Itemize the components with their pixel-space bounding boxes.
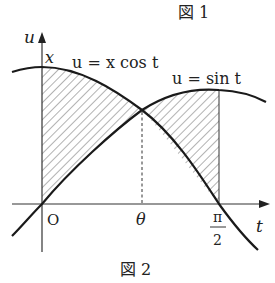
origin-label: O <box>47 211 59 229</box>
pi-numerator: π <box>213 209 222 225</box>
theta-label-text: θ <box>136 210 146 229</box>
t-axis-arrow-icon <box>259 200 270 208</box>
sin-curve-label: u = sin t <box>172 69 242 88</box>
y-intercept-label: x <box>45 48 54 67</box>
diagram-canvas: 図 1 図 2 u t O x u = x cos t u = sin t θ … <box>0 0 275 283</box>
u-axis-label: u <box>24 27 35 47</box>
figure-1-caption: 図 1 <box>178 3 209 22</box>
cos-curve-label: u = x cos t <box>72 53 159 72</box>
figure-2-caption: 図 2 <box>120 260 151 279</box>
u-axis-arrow-icon <box>38 32 46 43</box>
pi-denominator: 2 <box>213 232 222 248</box>
t-axis-label: t <box>256 216 263 236</box>
